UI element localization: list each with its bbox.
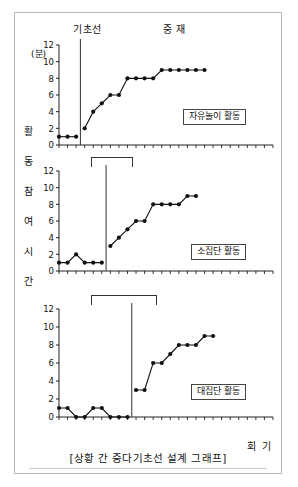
y-tick-label: 12 (43, 40, 54, 50)
data-point (91, 110, 95, 114)
data-point (143, 219, 147, 223)
y-tick-label: 0 (49, 140, 54, 150)
data-point (211, 334, 215, 338)
phase-label-baseline: 기초선 (73, 21, 102, 36)
y-tick-label: 6 (49, 90, 54, 100)
data-point (125, 227, 129, 231)
chart-panel-free-play: 024681012 (37, 39, 279, 161)
series-line (136, 336, 213, 390)
data-point (125, 415, 129, 419)
data-point (185, 68, 189, 72)
data-point (74, 135, 78, 139)
data-point (134, 76, 138, 80)
condition-label-large-group: 대집단 활동 (191, 384, 246, 400)
data-point (125, 76, 129, 80)
chart-svg: 024681012 (37, 39, 279, 161)
condition-label-free-play: 자유놀이 활동 (183, 109, 246, 125)
data-point (117, 93, 121, 97)
y-tick-label: 4 (49, 233, 54, 243)
data-point (143, 388, 147, 392)
y-tick-label: 0 (49, 266, 54, 276)
y-tick-label: 10 (43, 57, 54, 67)
y-tick-label: 8 (49, 200, 54, 210)
data-point (151, 76, 155, 80)
data-point (168, 202, 172, 206)
chart-svg: 024681012 (37, 165, 279, 287)
y-axis-title-char: 여 (19, 207, 37, 237)
data-point (100, 101, 104, 105)
chart-svg: 024681012 (37, 303, 279, 433)
y-tick-label: 8 (49, 340, 54, 350)
y-tick-label: 10 (43, 322, 54, 332)
data-point (151, 361, 155, 365)
y-axis-title-char: 동 (19, 147, 37, 177)
data-point (65, 261, 69, 265)
data-point (108, 244, 112, 248)
y-tick-label: 2 (49, 250, 54, 260)
y-axis-title-char: 시 (19, 237, 37, 267)
y-tick-label: 2 (49, 394, 54, 404)
data-point (177, 68, 181, 72)
y-tick-label: 12 (43, 304, 54, 314)
data-point (117, 236, 121, 240)
y-axis-title: 활동참여시간 (19, 117, 37, 297)
data-point (194, 68, 198, 72)
y-tick-label: 6 (49, 358, 54, 368)
data-point (65, 135, 69, 139)
phase-change-connector (91, 295, 157, 305)
data-point (108, 93, 112, 97)
y-tick-label: 4 (49, 107, 54, 117)
data-point (160, 202, 164, 206)
data-point (134, 219, 138, 223)
y-axis-title-char: 활 (19, 117, 37, 147)
y-tick-label: 8 (49, 74, 54, 84)
data-point (185, 343, 189, 347)
figure-frame: 기초선 중 재 (분) 활동참여시간 024681012 024681012 0… (14, 12, 282, 474)
chart-panel-large-group: 024681012 (37, 303, 279, 433)
data-point (83, 126, 87, 130)
data-point (151, 202, 155, 206)
y-axis-title-char: 참 (19, 177, 37, 207)
series-line (59, 254, 102, 262)
y-tick-label: 10 (43, 183, 54, 193)
data-point (83, 415, 87, 419)
data-point (57, 135, 61, 139)
caption-divider (29, 468, 267, 469)
data-point (65, 406, 69, 410)
chart-panel-small-group: 024681012 (37, 165, 279, 287)
data-point (100, 406, 104, 410)
condition-label-small-group: 소집단 활동 (191, 244, 246, 260)
figure-caption: [상황 간 중다기초선 설계 그래프] (15, 450, 281, 465)
data-point (74, 252, 78, 256)
data-point (100, 261, 104, 265)
data-point (160, 361, 164, 365)
y-tick-label: 12 (43, 166, 54, 176)
data-point (117, 415, 121, 419)
data-point (143, 76, 147, 80)
data-point (57, 406, 61, 410)
data-point (194, 343, 198, 347)
data-point (202, 334, 206, 338)
data-point (177, 343, 181, 347)
data-point (168, 352, 172, 356)
phase-change-connector (91, 157, 133, 167)
y-tick-label: 4 (49, 376, 54, 386)
data-point (91, 261, 95, 265)
data-point (134, 388, 138, 392)
y-tick-label: 6 (49, 216, 54, 226)
data-point (202, 68, 206, 72)
phase-header-row: 기초선 중 재 (15, 21, 283, 39)
data-point (168, 68, 172, 72)
data-point (74, 415, 78, 419)
data-point (83, 261, 87, 265)
y-axis-title-char: 간 (19, 267, 37, 297)
y-tick-label: 0 (49, 412, 54, 422)
data-point (185, 194, 189, 198)
data-point (160, 68, 164, 72)
phase-label-intervention: 중 재 (163, 21, 186, 36)
data-point (194, 194, 198, 198)
data-point (57, 261, 61, 265)
data-point (177, 202, 181, 206)
data-point (108, 415, 112, 419)
data-point (91, 406, 95, 410)
